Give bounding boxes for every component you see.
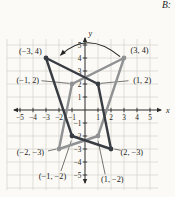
y-tick-label: −5 — [74, 171, 82, 180]
point-label: (−1, 2) — [16, 76, 39, 85]
dark-quadrilateral-vertex-dot — [96, 82, 101, 87]
y-tick-label: 4 — [78, 54, 82, 63]
gray-quadrilateral-vertex-dot — [70, 82, 75, 87]
point-label: (2, −3) — [120, 148, 143, 157]
point-label: (−1, −2) — [39, 172, 67, 181]
y-axis-label: y — [88, 29, 93, 38]
x-tick-label: 4 — [135, 113, 139, 122]
y-tick-label: 5 — [78, 41, 82, 50]
gray-quadrilateral-vertex-dot — [122, 56, 127, 61]
y-tick-label: −3 — [74, 145, 82, 154]
x-tick-label: −3 — [42, 113, 50, 122]
point-label: (1, 2) — [133, 76, 151, 85]
y-axis-top-arrowhead — [83, 37, 87, 42]
y-tick-label: 1 — [78, 93, 82, 102]
graph-figure: −5−4−3−2−11234554321−1−2−3−4−5xy(−3, 4)(… — [0, 0, 175, 197]
x-tick-label: 2 — [109, 113, 113, 122]
y-tick-label: −1 — [74, 119, 82, 128]
x-tick-label: −5 — [16, 113, 24, 122]
x-axis-left-arrowhead — [13, 108, 18, 112]
gray-quadrilateral — [59, 58, 124, 149]
x-axis-label: x — [165, 106, 170, 115]
gray-quadrilateral-vertex-dot — [96, 134, 101, 139]
point-label: (−3, 4) — [19, 47, 42, 56]
dark-quadrilateral-vertex-dot — [109, 147, 114, 152]
gray-quadrilateral-vertex-dot — [57, 147, 62, 152]
point-label: (3, 4) — [131, 46, 149, 55]
x-tick-label: −4 — [29, 113, 37, 122]
x-tick-label: 1 — [96, 113, 100, 122]
x-tick-label: −2 — [55, 113, 63, 122]
point-label: (−2, −3) — [17, 148, 45, 157]
y-axis-bottom-arrowhead — [83, 179, 87, 184]
problem-label: B: — [162, 0, 175, 10]
x-tick-label: 3 — [122, 113, 126, 122]
point-label: (1, −2) — [101, 175, 124, 184]
y-tick-label: −4 — [74, 158, 82, 167]
dark-quadrilateral-vertex-dot — [44, 56, 49, 61]
dark-quadrilateral-vertex-dot — [70, 134, 75, 139]
coordinate-plane: −5−4−3−2−11234554321−1−2−3−4−5xy(−3, 4)(… — [0, 0, 175, 197]
x-axis-right-arrowhead — [157, 108, 162, 112]
x-tick-label: 5 — [148, 113, 152, 122]
